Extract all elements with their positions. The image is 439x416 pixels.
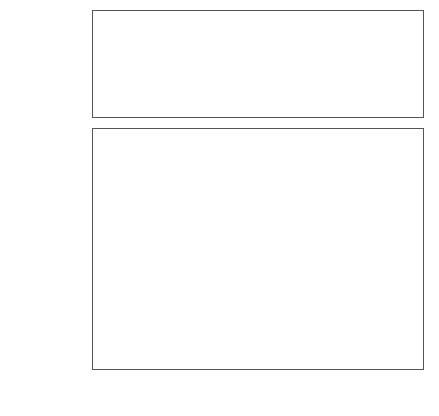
- plot-frame-top: [92, 10, 424, 118]
- figure: [0, 0, 439, 416]
- plot-frame-bottom: [92, 128, 424, 370]
- chart-candidate-countries: [0, 126, 439, 416]
- chart-existing-members: [0, 0, 439, 122]
